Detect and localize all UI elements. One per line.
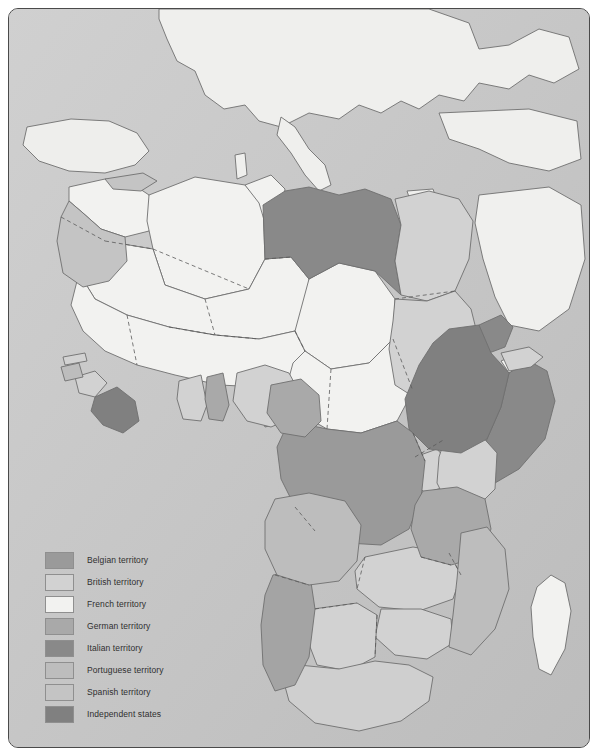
legend-swatch [45, 618, 74, 635]
legend-label: Belgian territory [87, 555, 148, 565]
region-bechuanaland [307, 603, 377, 671]
legend-item: French territory [45, 593, 265, 615]
legend-swatch [45, 706, 74, 723]
region-angola [265, 493, 361, 585]
map-frame: Belgian territory British territory Fren… [8, 8, 590, 748]
legend-item: Spanish territory [45, 681, 265, 703]
legend-swatch [45, 552, 74, 569]
legend-label: French territory [87, 599, 146, 609]
legend-swatch [45, 596, 74, 613]
legend-item: Portuguese territory [45, 659, 265, 681]
legend-item: British territory [45, 571, 265, 593]
legend-label: Independent states [87, 709, 161, 719]
legend-item: Independent states [45, 703, 265, 725]
legend-label: Portuguese territory [87, 665, 164, 675]
legend-item: German territory [45, 615, 265, 637]
legend-label: German territory [87, 621, 150, 631]
legend-swatch [45, 662, 74, 679]
legend-swatch [45, 684, 74, 701]
region-gold-coast [177, 375, 207, 421]
region-sardinia [235, 153, 247, 179]
map-legend: Belgian territory British territory Fren… [45, 549, 265, 725]
legend-label: Italian territory [87, 643, 143, 653]
legend-swatch [45, 574, 74, 591]
legend-swatch [45, 640, 74, 657]
legend-label: British territory [87, 577, 144, 587]
legend-item: Belgian territory [45, 549, 265, 571]
region-algeria [147, 177, 265, 299]
legend-item: Italian territory [45, 637, 265, 659]
legend-label: Spanish territory [87, 687, 151, 697]
